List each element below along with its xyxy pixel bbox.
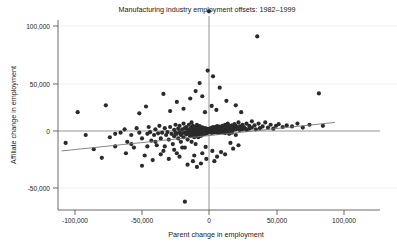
data-point <box>231 147 235 151</box>
y-tick-label-0: 0 <box>46 128 50 135</box>
x-axis-title: Parent change in employment <box>168 230 264 239</box>
data-point <box>179 140 183 144</box>
data-point <box>137 131 141 135</box>
data-point <box>108 135 112 139</box>
data-point <box>147 125 151 129</box>
data-point <box>236 120 240 124</box>
data-point <box>207 9 211 13</box>
data-points <box>64 9 325 204</box>
data-point <box>180 145 184 149</box>
data-point <box>239 110 243 114</box>
data-point <box>206 68 210 72</box>
data-point <box>171 142 175 146</box>
data-point <box>255 34 259 38</box>
x-tick-label-minus50000: -50,000 <box>131 217 154 224</box>
data-point <box>163 144 167 148</box>
data-point <box>125 140 129 144</box>
data-point <box>234 133 238 137</box>
data-point <box>173 123 177 127</box>
y-tick-label-minus50000: -50,000 <box>28 185 51 192</box>
data-point <box>224 99 228 103</box>
data-point <box>84 133 88 137</box>
data-point <box>219 150 223 154</box>
data-point <box>203 110 207 114</box>
x-tick-label-minus100000: -100,000 <box>62 217 88 224</box>
data-point <box>189 140 193 144</box>
data-point <box>236 143 240 147</box>
data-point <box>132 145 136 149</box>
data-point <box>64 141 68 145</box>
data-point <box>194 142 198 146</box>
data-point <box>199 161 203 165</box>
chart-container: Manufacturing industry employment offset… <box>0 0 397 243</box>
data-point <box>124 151 128 155</box>
data-point <box>252 123 256 127</box>
x-tick-label-50000: 50,000 <box>267 217 288 224</box>
data-point <box>188 96 192 100</box>
data-point <box>250 119 254 123</box>
data-point <box>200 151 204 155</box>
data-point <box>118 131 122 135</box>
data-point <box>214 108 218 112</box>
data-point <box>104 103 108 107</box>
data-point <box>281 125 285 129</box>
data-point <box>200 94 204 98</box>
data-point <box>168 109 172 113</box>
data-point <box>167 157 171 161</box>
data-point <box>148 130 152 134</box>
data-point <box>211 74 215 78</box>
data-point <box>152 133 156 137</box>
data-point <box>183 200 187 204</box>
data-point <box>204 145 208 149</box>
data-point <box>191 159 195 163</box>
data-point <box>215 155 219 159</box>
data-point <box>277 122 281 126</box>
data-point <box>129 133 133 137</box>
data-point <box>295 121 299 125</box>
data-point <box>210 149 214 153</box>
chart-title: Manufacturing industry employment offset… <box>119 5 296 14</box>
data-point <box>194 89 198 93</box>
data-point <box>218 86 222 90</box>
data-point <box>321 124 325 128</box>
data-point <box>113 132 117 136</box>
data-point <box>256 121 260 125</box>
data-point <box>263 120 267 124</box>
data-point <box>181 121 185 125</box>
data-point <box>198 81 202 85</box>
data-point <box>210 104 214 108</box>
data-point <box>161 92 165 96</box>
data-point <box>181 107 185 111</box>
scatter-chart: Manufacturing industry employment offset… <box>0 0 397 243</box>
data-point <box>143 153 147 157</box>
y-tick-label-100000: 100,000 <box>26 23 50 30</box>
x-axis: -100,000 -50,000 0 50,000 100,000 Parent… <box>58 210 380 239</box>
data-point <box>145 144 149 148</box>
data-point <box>269 123 273 127</box>
data-point <box>168 125 172 129</box>
data-point <box>122 127 126 131</box>
data-point <box>165 130 169 134</box>
data-point <box>317 91 321 95</box>
data-point <box>177 155 181 159</box>
data-point <box>76 110 80 114</box>
data-point <box>172 148 176 152</box>
data-point <box>144 104 148 108</box>
data-point <box>175 151 179 155</box>
data-point <box>140 136 144 140</box>
data-point <box>163 126 167 130</box>
data-point <box>153 140 157 144</box>
data-point <box>159 152 163 156</box>
data-point <box>151 158 155 162</box>
data-point <box>160 131 164 135</box>
gridlines <box>58 26 397 188</box>
data-point <box>175 100 179 104</box>
data-point <box>234 103 238 107</box>
reference-lines <box>58 16 380 210</box>
data-point <box>212 159 216 163</box>
data-point <box>137 111 141 115</box>
data-point <box>204 157 208 161</box>
data-point <box>185 163 189 167</box>
y-axis-title: Affiliate change in employment <box>9 66 18 164</box>
x-tick-label-100000: 100,000 <box>332 217 356 224</box>
